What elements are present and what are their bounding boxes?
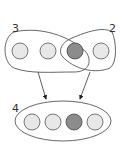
item-circle-shared — [66, 114, 82, 130]
arrow-3-to-4 — [38, 72, 46, 99]
group-3-label: 3 — [12, 23, 19, 34]
group-4-label: 4 — [12, 103, 19, 114]
item-circle-shared — [67, 43, 83, 59]
item-circle — [45, 114, 61, 130]
group-2-label: 2 — [109, 23, 116, 34]
item-circle — [24, 114, 40, 130]
item-circle — [40, 43, 56, 59]
item-circle — [12, 43, 28, 59]
arrow-2-to-4 — [80, 72, 90, 99]
item-circle — [87, 114, 103, 130]
item-circle — [93, 43, 109, 59]
